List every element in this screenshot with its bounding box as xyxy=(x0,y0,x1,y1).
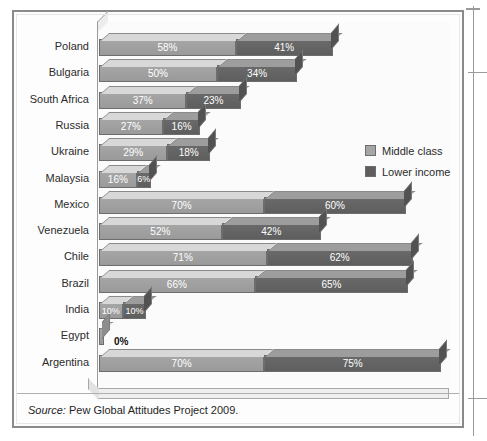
legend-label-lower-income: Lower income xyxy=(382,166,450,178)
bar-segment-lower-income[interactable]: 65% xyxy=(255,276,408,293)
category-label-poland: Poland xyxy=(0,40,89,52)
bar-value-label: 41% xyxy=(274,42,294,53)
category-label-chile: Chile xyxy=(0,250,89,262)
bar-segment-lower-income[interactable]: 62% xyxy=(267,249,413,266)
page-margin-tick-upper xyxy=(468,72,487,73)
legend-item-middle-class: Middle class xyxy=(365,140,450,161)
bar-segment-lower-income[interactable]: 41% xyxy=(236,39,333,56)
bar-segment-middle-class[interactable]: 58% xyxy=(99,39,236,56)
chart-legend: Middle class Lower income xyxy=(365,140,450,182)
bar-segment-middle-class[interactable]: 16% xyxy=(99,171,137,188)
footer-divider xyxy=(16,393,460,394)
bar-segment-lower-income[interactable]: 75% xyxy=(264,355,441,372)
bar-value-label: 23% xyxy=(203,95,223,106)
bar-value-label: 16% xyxy=(108,174,128,185)
bar-segment-middle-class[interactable]: 37% xyxy=(99,92,186,109)
bar-segment-lower-income[interactable]: 34% xyxy=(217,65,297,82)
bar-value-label: 58% xyxy=(157,42,177,53)
bar-segment-middle-class[interactable]: 27% xyxy=(99,118,163,135)
legend-swatch-lower-income xyxy=(365,166,376,177)
bar-segment-middle-class[interactable] xyxy=(99,328,104,345)
category-label-russia: Russia xyxy=(0,119,89,131)
bar-value-label-outside: 0% xyxy=(114,336,128,347)
category-label-venezuela: Venezuela xyxy=(0,224,89,236)
source-label: Source: xyxy=(28,404,66,416)
bar-value-label: 75% xyxy=(343,358,363,369)
bar-value-label: 52% xyxy=(150,226,170,237)
bar-segment-middle-class[interactable]: 66% xyxy=(99,276,255,293)
bar-row: Russia27%16% xyxy=(14,113,462,139)
legend-label-middle-class: Middle class xyxy=(382,145,443,157)
bar-segment-middle-class[interactable]: 50% xyxy=(99,65,217,82)
bar-value-label: 66% xyxy=(167,279,187,290)
bar-value-label: 34% xyxy=(247,68,267,79)
bar-segment-middle-class[interactable]: 10% xyxy=(99,302,123,319)
category-label-ukraine: Ukraine xyxy=(0,145,89,157)
bar-value-label: 10% xyxy=(125,306,143,316)
chart-plot-area: Poland58%41%Bulgaria50%34%South Africa37… xyxy=(14,12,462,394)
category-label-brazil: Brazil xyxy=(0,277,89,289)
category-label-bulgaria: Bulgaria xyxy=(0,66,89,78)
bar-segment-lower-income[interactable]: 60% xyxy=(264,197,406,214)
bar-segment-lower-income[interactable]: 10% xyxy=(123,302,147,319)
bar-row: Venezuela52%42% xyxy=(14,218,462,244)
source-value: Pew Global Attitudes Project 2009. xyxy=(66,404,238,416)
bar-row: India10%10% xyxy=(14,297,462,323)
bar-row: Egypt0% xyxy=(14,323,462,349)
category-label-egypt: Egypt xyxy=(0,329,89,341)
legend-swatch-middle-class xyxy=(365,145,376,156)
category-label-india: India xyxy=(0,303,89,315)
bar-value-label: 62% xyxy=(330,252,350,263)
bar-value-label: 10% xyxy=(102,306,120,316)
bar-segment-middle-class[interactable]: 70% xyxy=(99,355,264,372)
bar-segment-middle-class[interactable]: 70% xyxy=(99,197,264,214)
bar-value-label: 27% xyxy=(121,121,141,132)
bar-segment-middle-class[interactable]: 52% xyxy=(99,223,222,240)
bar-value-label: 18% xyxy=(179,147,199,158)
bar-value-label: 50% xyxy=(148,68,168,79)
bar-segment-middle-class[interactable]: 71% xyxy=(99,249,267,266)
category-label-south-africa: South Africa xyxy=(0,93,89,105)
bar-row: Brazil66%65% xyxy=(14,271,462,297)
page-margin-tick-lower xyxy=(468,398,487,399)
bar-value-label: 16% xyxy=(172,121,192,132)
bar-segment-middle-class[interactable]: 29% xyxy=(99,144,167,161)
bar-row: Poland58%41% xyxy=(14,34,462,60)
bar-segment-lower-income[interactable]: 6% xyxy=(137,171,151,188)
bar-value-label: 29% xyxy=(123,147,143,158)
bar-row: Mexico70%60% xyxy=(14,192,462,218)
bar-row: Argentina70%75% xyxy=(14,350,462,376)
figure-container: Poland58%41%Bulgaria50%34%South Africa37… xyxy=(12,10,464,428)
bar-segment-lower-income[interactable]: 18% xyxy=(167,144,209,161)
page-margin-tick-top xyxy=(466,8,480,10)
category-label-argentina: Argentina xyxy=(0,356,89,368)
bar-segment-lower-income[interactable]: 16% xyxy=(163,118,201,135)
bar-value-label: 42% xyxy=(261,226,281,237)
page-cutoff-text xyxy=(150,0,211,3)
bar-value-label: 70% xyxy=(172,200,192,211)
category-label-mexico: Mexico xyxy=(0,198,89,210)
page-margin-rule-vertical xyxy=(473,6,474,436)
bar-value-label: 71% xyxy=(173,252,193,263)
bar-row: Bulgaria50%34% xyxy=(14,60,462,86)
bar-value-label: 37% xyxy=(133,95,153,106)
source-note: Source: Pew Global Attitudes Project 200… xyxy=(28,404,238,416)
category-label-malaysia: Malaysia xyxy=(0,172,89,184)
bar-row: South Africa37%23% xyxy=(14,87,462,113)
bar-value-label: 70% xyxy=(172,358,192,369)
bar-value-label: 60% xyxy=(325,200,345,211)
bar-segment-lower-income[interactable]: 42% xyxy=(222,223,321,240)
bar-value-label: 6% xyxy=(137,174,150,184)
legend-item-lower-income: Lower income xyxy=(365,161,450,182)
bar-value-label: 65% xyxy=(321,279,341,290)
bar-row: Chile71%62% xyxy=(14,244,462,270)
bar-segment-lower-income[interactable]: 23% xyxy=(186,92,240,109)
